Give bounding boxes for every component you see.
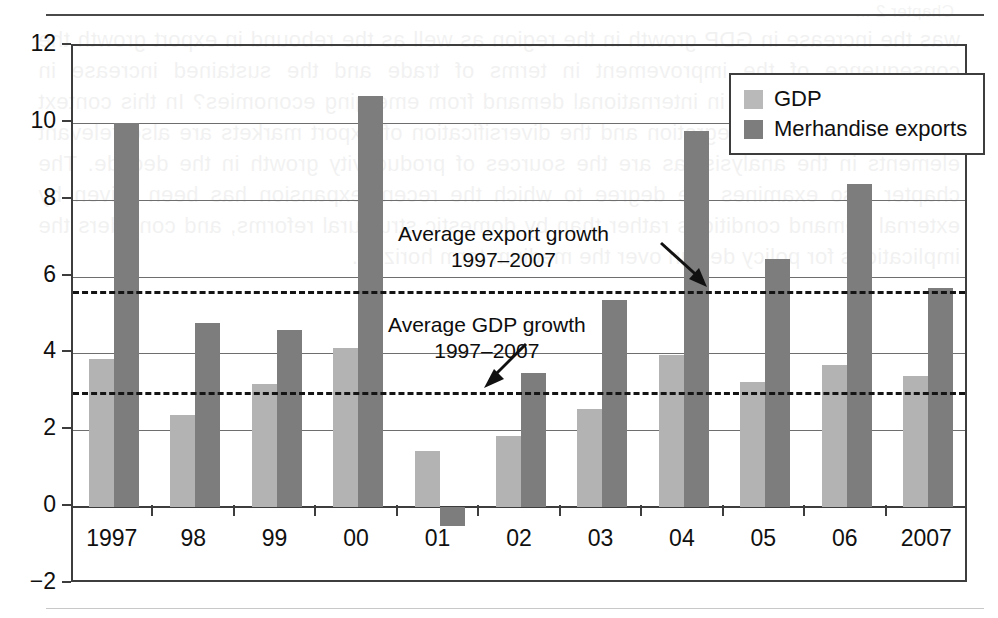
y-axis-tick — [62, 197, 71, 199]
x-axis-tick-label: 02 — [478, 527, 559, 550]
bar-gdp-2007 — [903, 376, 928, 507]
x-axis-tick-label: 2007 — [886, 527, 967, 550]
annotation-arrow-export — [655, 237, 725, 299]
x-axis-tick — [151, 505, 153, 516]
bar-exports-00 — [358, 96, 383, 507]
y-axis-tick — [62, 350, 71, 352]
bar-exports-03 — [602, 300, 627, 508]
legend-item-merchandise-exports: Merhandise exports — [744, 114, 967, 144]
y-axis-tick-label: 0 — [0, 493, 56, 516]
bar-exports-2007 — [928, 288, 953, 507]
bar-gdp-06 — [822, 365, 847, 507]
x-axis-tick — [314, 505, 316, 516]
x-axis-tick — [477, 505, 479, 516]
y-axis-tick — [62, 274, 71, 276]
x-axis-tick-label: 1997 — [71, 527, 152, 550]
bar-gdp-05 — [740, 382, 765, 507]
y-axis-tick-label: −2 — [0, 570, 56, 593]
annotation-arrow-gdp — [466, 338, 538, 400]
legend-label: Merhandise exports — [774, 118, 967, 140]
y-axis-tick — [62, 43, 71, 45]
legend-swatch-icon — [744, 120, 763, 139]
x-axis-tick — [722, 505, 724, 516]
y-axis-tick — [62, 504, 71, 506]
reference-line-avg-export — [73, 291, 965, 294]
bar-gdp-03 — [577, 409, 602, 507]
legend-swatch-icon — [744, 90, 763, 109]
y-axis-tick-label: 10 — [0, 109, 56, 132]
bar-exports-04 — [684, 131, 709, 508]
y-axis-tick — [62, 581, 71, 583]
bar-exports-06 — [847, 184, 872, 507]
x-axis-tick — [559, 505, 561, 516]
legend-item-gdp: GDP — [744, 84, 967, 114]
bar-exports-05 — [765, 259, 790, 507]
bar-gdp-01 — [415, 451, 440, 507]
annotation-average-export-growth: Average export growth 1997–2007 — [398, 221, 609, 273]
y-axis-tick — [62, 427, 71, 429]
x-axis-tick — [640, 505, 642, 516]
y-axis-tick-label: 2 — [0, 416, 56, 439]
x-axis-tick-label: 05 — [723, 527, 804, 550]
chart-legend: GDPMerhandise exports — [729, 73, 985, 155]
x-axis-tick — [803, 505, 805, 516]
bar-gdp-1997 — [89, 359, 114, 507]
bar-exports-98 — [195, 323, 220, 507]
y-axis-tick-label: 8 — [0, 186, 56, 209]
bar-gdp-02 — [496, 436, 521, 507]
x-axis-tick — [885, 505, 887, 516]
x-axis-tick-label: 98 — [152, 527, 233, 550]
y-axis-tick-label: 6 — [0, 263, 56, 286]
bar-gdp-98 — [170, 415, 195, 507]
bar-exports-99 — [277, 330, 302, 507]
x-axis-tick-label: 00 — [315, 527, 396, 550]
bar-gdp-99 — [252, 384, 277, 507]
y-axis-tick — [62, 120, 71, 122]
x-axis-tick-label: 99 — [234, 527, 315, 550]
x-axis-tick-label: 06 — [804, 527, 885, 550]
x-axis-tick — [233, 505, 235, 516]
y-axis-tick-label: 4 — [0, 339, 56, 362]
x-axis-tick — [396, 505, 398, 516]
legend-label: GDP — [774, 88, 822, 110]
bar-gdp-00 — [333, 348, 358, 507]
x-axis-tick-label: 01 — [397, 527, 478, 550]
bar-exports-01 — [440, 507, 465, 526]
bar-exports-1997 — [114, 123, 139, 507]
x-axis-tick-label: 04 — [641, 527, 722, 550]
bar-chart: −2024681012 19979899000102030405062007 A… — [0, 0, 998, 618]
y-axis-tick-label: 12 — [0, 32, 56, 55]
bar-gdp-04 — [659, 355, 684, 507]
x-axis-tick-label: 03 — [560, 527, 641, 550]
